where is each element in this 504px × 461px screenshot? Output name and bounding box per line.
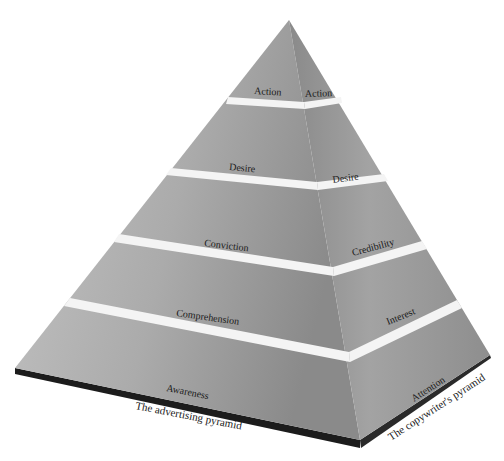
pyramid-diagram: Action Desire Conviction Comprehension A… <box>0 0 504 461</box>
right-level-1-label: Action <box>305 87 333 99</box>
left-level-1-label: Action <box>254 85 282 97</box>
left-level-2-label: Desire <box>229 161 257 174</box>
